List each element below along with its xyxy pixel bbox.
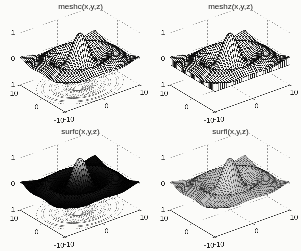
meshz-plot-canvas — [150, 0, 300, 125]
surfl-plot-canvas — [150, 125, 300, 250]
surfc-plot-canvas — [0, 125, 150, 250]
meshc-title: meshc(x,y,z) — [8, 2, 153, 12]
subplot-meshz: meshz(x,y,z) — [150, 0, 300, 125]
surfl-title: surfl(x,y,z) — [158, 127, 301, 137]
meshz-title: meshz(x,y,z) — [158, 2, 301, 12]
surfc-title: surfc(x,y,z) — [8, 127, 153, 137]
meshc-plot-canvas — [0, 0, 150, 125]
subplot-meshc: meshc(x,y,z) — [0, 0, 150, 125]
matlab-figure: meshc(x,y,z) meshz(x,y,z) surfc(x,y,z) s… — [0, 0, 301, 251]
subplot-surfc: surfc(x,y,z) — [0, 125, 150, 250]
subplot-surfl: surfl(x,y,z) — [150, 125, 300, 250]
